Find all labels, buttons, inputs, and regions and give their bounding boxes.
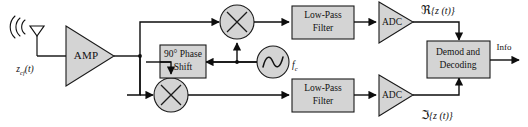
receiver-block-diagram: zcf(t) AMP (0, 0, 528, 127)
real-part-label: ℜ{z (t)} (421, 3, 455, 17)
output-label: Info (497, 42, 512, 52)
svg-text:ℜ{z (t)}: ℜ{z (t)} (421, 3, 455, 17)
phase-shift-line2: Shift (174, 62, 193, 72)
lpf-q-line2: Filter (313, 96, 334, 106)
local-oscillator (257, 46, 289, 78)
amplifier-label: AMP (74, 49, 98, 61)
osc-freq-sub: c (295, 65, 298, 72)
svg-text:fc: fc (292, 60, 298, 72)
lpf-i-line1: Low-Pass (304, 10, 342, 20)
input-signal-arg: (t) (25, 64, 34, 75)
phase-shift-line1: 90° Phase (164, 49, 202, 59)
mixer-i (220, 5, 254, 39)
lpf-i-block: Low-Pass Filter (292, 6, 354, 39)
amplifier-block: AMP (66, 26, 114, 86)
adc-i-label: ADC (382, 17, 402, 27)
real-arg: {z (t)} (431, 5, 455, 17)
adc-q-label: ADC (382, 90, 402, 100)
split-node (138, 54, 142, 58)
lpf-i-line2: Filter (313, 23, 334, 33)
input-signal-label: zcf(t) (15, 64, 33, 76)
adc-q-block: ADC (379, 75, 413, 116)
mixer-q (154, 78, 188, 112)
demod-line2: Decoding (440, 60, 477, 70)
imag-arg: {z (t)} (429, 110, 453, 122)
svg-text:zcf(t): zcf(t) (15, 64, 33, 76)
diagram-canvas: zcf(t) AMP (0, 0, 528, 127)
lpf-q-block: Low-Pass Filter (292, 79, 354, 112)
demod-line1: Demod and (436, 47, 480, 57)
oscillator-frequency-label: fc (292, 60, 298, 72)
antenna-icon (10, 16, 44, 56)
imag-operator: ℑ (421, 108, 429, 122)
real-operator: ℜ (421, 3, 431, 17)
demod-decoding-block: Demod and Decoding (427, 41, 490, 78)
svg-text:ℑ{z (t)}: ℑ{z (t)} (421, 108, 453, 122)
lpf-q-line1: Low-Pass (304, 83, 342, 93)
adc-i-block: ADC (379, 2, 413, 43)
imag-part-label: ℑ{z (t)} (421, 108, 453, 122)
